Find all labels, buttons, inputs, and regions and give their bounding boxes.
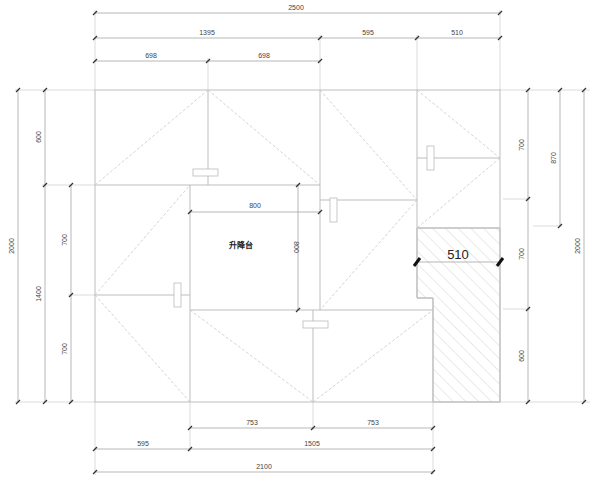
inner-height-label: 800: [293, 241, 300, 253]
dim-top-698-b: 698: [258, 52, 270, 59]
dim-bottom-595: 595: [137, 440, 149, 447]
vent-slots: [174, 146, 434, 328]
floor-plan-drawing: 800 800 升降台 510 2500 1395 595 510: [0, 0, 594, 487]
hatched-width-label: 510: [447, 247, 469, 262]
dim-right-700-a: 700: [518, 139, 525, 151]
dim-bottom-overall: 2100: [256, 463, 272, 470]
dim-right-700-b: 700: [518, 248, 525, 260]
dim-left-1400: 1400: [35, 286, 42, 302]
dim-right-600: 600: [518, 350, 525, 362]
right-dimensions: 700 700 600 870 2000: [500, 88, 590, 404]
bottom-dimensions: 753 753 595 1505 2100: [93, 402, 435, 475]
dim-top-595: 595: [362, 29, 374, 36]
dim-top-1395: 1395: [199, 29, 215, 36]
dim-bottom-753-a: 753: [246, 419, 258, 426]
dim-top-overall: 2500: [288, 4, 304, 11]
dim-bottom-753-b: 753: [367, 419, 379, 426]
inner-width-label: 800: [249, 202, 261, 209]
inner-dimensions: 800 800 升降台: [188, 183, 322, 312]
dim-top-510: 510: [451, 29, 463, 36]
dim-left-700-b: 700: [61, 343, 68, 355]
dim-left-600: 600: [35, 131, 42, 143]
dim-right-overall: 2000: [574, 238, 581, 254]
left-dimensions: 2000 600 1400 700 700: [8, 88, 95, 404]
dim-right-870: 870: [550, 152, 557, 164]
top-dimensions: 2500 1395 595 510 698 698: [93, 4, 502, 90]
dim-left-overall: 2000: [8, 238, 15, 254]
dim-bottom-1505: 1505: [304, 440, 320, 447]
dim-left-700-a: 700: [61, 234, 68, 246]
room-label: 升降台: [229, 240, 253, 250]
dim-top-698-a: 698: [145, 52, 157, 59]
